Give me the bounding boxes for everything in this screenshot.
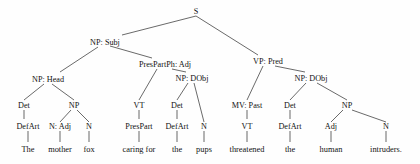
- node-prespartph-adj: PresPartPh: Adj: [139, 60, 191, 69]
- node-prespart: PresPart: [125, 122, 153, 131]
- node-np-dobj-2: NP: DObj: [295, 74, 328, 83]
- edge-nphead-np: [52, 84, 74, 100]
- node-defart-1: DefArt: [16, 122, 40, 131]
- edge-np1-n1: [77, 110, 89, 122]
- node-defart-3: DefArt: [278, 122, 302, 131]
- node-vt-2: VT: [242, 122, 253, 131]
- edge-prespartph-vt: [139, 69, 157, 100]
- edge-npdobj2-det: [290, 83, 306, 100]
- leaf-word-4: caring for: [123, 145, 156, 154]
- edge-s-npsubj: [122, 16, 196, 35]
- node-np-2: NP: [342, 101, 353, 110]
- leaf-word-6: pups: [196, 145, 212, 154]
- node-np-1: NP: [69, 101, 80, 110]
- node-n-3: N: [383, 122, 389, 131]
- node-det-1: Det: [18, 101, 31, 110]
- leaf-word-1: The: [21, 145, 34, 154]
- node-s: S: [194, 7, 199, 16]
- node-vp-pred: VP: Pred: [253, 57, 283, 66]
- edge-npdobj1-n: [194, 83, 204, 122]
- edge-np1-nadj: [60, 110, 71, 122]
- node-adj-1: Adj: [325, 122, 337, 131]
- leaf-word-10: intruders.: [370, 145, 402, 154]
- node-defart-2: DefArt: [165, 122, 189, 131]
- node-n-1: N: [86, 122, 92, 131]
- node-n-2: N: [201, 122, 207, 131]
- edge-vppred-mvpast: [247, 66, 263, 100]
- node-np-head: NP: Head: [32, 75, 64, 84]
- edge-s-vppred: [196, 16, 258, 55]
- edge-npdobj2-np: [317, 83, 347, 100]
- edge-nphead-det: [24, 84, 44, 100]
- tree-canvas: S NP: Subj VP: Pred NP: Head PresPartPh:…: [0, 0, 420, 164]
- node-det-3: Det: [284, 101, 297, 110]
- syntax-tree-diagram: S NP: Subj VP: Pred NP: Head PresPartPh:…: [0, 0, 420, 164]
- node-det-2: Det: [171, 101, 184, 110]
- node-np-subj: NP: Subj: [90, 38, 120, 47]
- node-n-adj: N: Adj: [49, 122, 71, 131]
- node-mv-past: MV: Past: [232, 101, 263, 110]
- edge-np2-adj: [331, 110, 343, 122]
- node-np-dobj-1: NP: DObj: [176, 74, 209, 83]
- leaf-word-2: mother: [48, 145, 72, 154]
- edge-npsubj-nphead: [60, 47, 98, 72]
- edge-prespartph-npdobj1: [172, 69, 186, 72]
- leaf-word-7: threatened: [230, 145, 266, 154]
- tree-leaf-words: The mother fox caring for the pups threa…: [21, 145, 401, 154]
- edge-vppred-npdobj2: [275, 66, 305, 72]
- leaf-word-8: the: [285, 145, 296, 154]
- edge-npsubj-prespartph: [110, 46, 152, 58]
- node-vt-1: VT: [134, 101, 145, 110]
- leaf-word-3: fox: [83, 145, 95, 154]
- tree-node-labels: S NP: Subj VP: Pred NP: Head PresPartPh:…: [16, 7, 389, 131]
- edge-np2-n3: [352, 110, 386, 122]
- leaf-word-5: the: [172, 145, 183, 154]
- leaf-word-9: human: [320, 145, 344, 154]
- edge-npdobj1-det: [177, 83, 188, 100]
